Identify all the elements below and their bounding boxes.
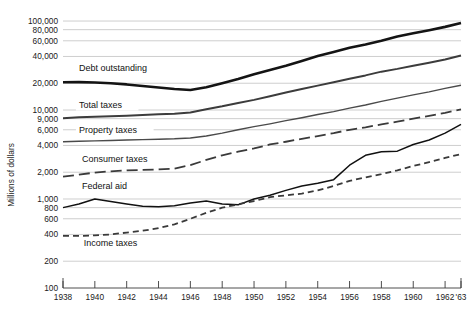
series-line bbox=[63, 109, 461, 176]
series-label: Debt outstanding bbox=[79, 63, 147, 73]
x-axis-tick-label: 1954 bbox=[308, 292, 327, 302]
x-axis-tick-label: 1948 bbox=[213, 292, 232, 302]
series-label: Consumer taxes bbox=[82, 154, 148, 164]
x-axis-tick-label: 1956 bbox=[340, 292, 359, 302]
y-axis-tick-label: 60,000 bbox=[33, 36, 59, 46]
y-axis-tick-label: 200 bbox=[44, 256, 58, 266]
gridlines-group bbox=[63, 21, 461, 261]
y-axis-tick-label: 10,000 bbox=[33, 105, 59, 115]
y-axis-tick-label: 20,000 bbox=[33, 78, 59, 88]
x-axis-tick-label: '63 bbox=[456, 292, 467, 302]
series-label: Property taxes bbox=[79, 125, 138, 135]
y-axis-tick-label: 2,000 bbox=[37, 167, 58, 177]
series-label: Federal aid bbox=[82, 181, 127, 191]
y-axis-tick-label: 800 bbox=[44, 203, 58, 213]
x-axis-group: 1938194019421944194619481950195219541956… bbox=[54, 278, 467, 302]
line-chart: 1002004006008001,0002,0004,0006,0009,000… bbox=[0, 0, 474, 316]
series-label: Income taxes bbox=[84, 238, 138, 248]
series-line bbox=[63, 124, 461, 207]
x-axis-tick-label: 1938 bbox=[54, 292, 73, 302]
y-axis-tick-label: 100,000 bbox=[28, 16, 58, 26]
x-axis-tick-label: 1950 bbox=[245, 292, 264, 302]
series-line bbox=[63, 154, 461, 236]
y-axis-tick-label: 40,000 bbox=[33, 51, 59, 61]
x-axis-tick-label: 1958 bbox=[372, 292, 391, 302]
x-axis-tick-label: 1942 bbox=[117, 292, 136, 302]
x-axis-tick-label: 1940 bbox=[86, 292, 105, 302]
x-axis-tick-label: 1946 bbox=[181, 292, 200, 302]
y-axis-tick-label: 1,000 bbox=[37, 194, 58, 204]
x-axis-tick-label: 1960 bbox=[404, 292, 423, 302]
y-axis-tick-label: 80,000 bbox=[33, 25, 59, 35]
y-axis-ticks-group: 1002004006008001,0002,0004,0006,0009,000… bbox=[28, 16, 58, 293]
chart-container: 1002004006008001,0002,0004,0006,0009,000… bbox=[0, 0, 474, 316]
y-axis-tick-label: 600 bbox=[44, 214, 58, 224]
y-axis-tick-label: 6,000 bbox=[37, 125, 58, 135]
x-axis-tick-label: 1944 bbox=[149, 292, 168, 302]
y-axis-title: Millions of dollars bbox=[6, 143, 16, 207]
series-labels-group: Debt outstandingTotal taxesProperty taxe… bbox=[76, 62, 164, 249]
y-axis-tick-label: 9,000 bbox=[37, 114, 58, 124]
series-label: Total taxes bbox=[79, 100, 123, 110]
y-axis-tick-label: 4,000 bbox=[37, 140, 58, 150]
x-axis-tick-label: 1962 bbox=[436, 292, 455, 302]
y-axis-tick-label: 400 bbox=[44, 229, 58, 239]
x-axis-tick-label: 1952 bbox=[277, 292, 296, 302]
